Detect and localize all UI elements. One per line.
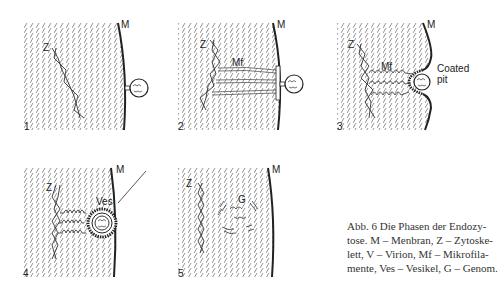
label-genome: G	[238, 194, 246, 205]
panel-number: 1	[24, 121, 30, 132]
caption-line: Abb. 6 Die Phasen der Endozy-	[347, 219, 492, 233]
label-vesicle: Ves	[96, 196, 113, 207]
virion	[95, 216, 109, 230]
caption-line: mente, Ves – Vesikel, G – Genom.	[347, 261, 492, 275]
label-membrane: M	[272, 164, 280, 175]
label-microfilaments: Mf	[381, 61, 392, 72]
panel-number: 4	[23, 268, 29, 279]
panel-number: 3	[337, 121, 343, 132]
label-cytoskeleton: Z	[43, 42, 49, 53]
receptor-patch	[276, 66, 280, 100]
label-coated-pit-2: pit	[437, 74, 448, 85]
virion	[130, 79, 148, 97]
virion	[285, 75, 303, 93]
label-cytoskeleton: Z	[46, 182, 52, 193]
label-cytoskeleton: Z	[200, 39, 206, 50]
cytoplasm	[23, 23, 125, 130]
label-cytoskeleton: Z	[348, 39, 354, 50]
panel-4: M Z Ves 4	[18, 163, 158, 281]
label-cytoskeleton: Z	[186, 178, 192, 189]
panel-number: 5	[178, 268, 184, 279]
caption-line: lett, V – Virion, Mf – Mikrofila-	[347, 247, 492, 261]
panel-2: M Z Mf 2	[176, 18, 316, 133]
panel-5: M Z G 5	[176, 163, 316, 281]
panel-number: 2	[178, 121, 184, 132]
pointer-line	[118, 171, 146, 203]
panel-1: M Z 1	[18, 18, 148, 133]
label-membrane: M	[277, 19, 285, 30]
caption-line: tose. M – Menbran, Z – Zytoske-	[347, 233, 492, 247]
figure-caption: Abb. 6 Die Phasen der Endozy- tose. M – …	[347, 219, 492, 275]
label-microfilaments: Mf	[232, 57, 243, 68]
label-coated-pit: Coated	[437, 63, 469, 74]
label-membrane: M	[116, 164, 124, 175]
label-membrane: M	[121, 19, 129, 30]
label-membrane: M	[427, 19, 435, 30]
panel-3: M Z Mf Coated pit 3	[335, 18, 491, 133]
virion-attachment	[125, 86, 130, 90]
virion	[414, 74, 430, 90]
